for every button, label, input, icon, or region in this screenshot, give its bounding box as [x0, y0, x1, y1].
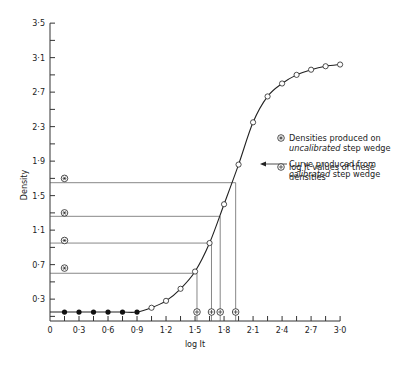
open-point — [265, 94, 270, 99]
svg-text:densities: densities — [289, 172, 326, 182]
svg-text:Densities produced on: Densities produced on — [289, 133, 381, 143]
filled-point — [91, 309, 96, 314]
open-point — [323, 64, 328, 69]
x-axis-label: log It — [185, 340, 205, 349]
y-tick-label: 1·5 — [32, 192, 45, 201]
arrow-head-icon — [260, 162, 266, 167]
y-axis-label: Density — [20, 170, 29, 201]
open-point — [192, 269, 197, 274]
calibrated-curve — [50, 65, 340, 313]
open-point — [221, 202, 226, 207]
y-tick-label: 3·5 — [32, 19, 45, 28]
y-tick-label: 0·3 — [32, 295, 45, 304]
y-tick-label: 2·7 — [32, 88, 45, 97]
open-point — [279, 81, 284, 86]
open-point — [178, 286, 183, 291]
filled-point — [120, 309, 125, 314]
x-tick-label: 2·1 — [247, 326, 260, 335]
x-tick-label: 1·5 — [189, 326, 202, 335]
circled-plus-icon — [278, 164, 285, 171]
x-tick-label: 3·0 — [334, 326, 347, 335]
open-point — [250, 120, 255, 125]
open-point — [149, 305, 154, 310]
data-markers — [61, 62, 342, 315]
open-point — [294, 72, 299, 77]
open-point — [236, 162, 241, 167]
circled-asterisk-icon — [278, 135, 285, 142]
x-tick-label: 0·3 — [73, 326, 86, 335]
x-tick-label: 0 — [47, 326, 52, 335]
y-tick-label: 1·1 — [32, 226, 45, 235]
characteristic-curve-chart: 00·30·60·91·21·51·82·12·42·73·00·30·71·1… — [0, 0, 401, 366]
x-tick-label: 0·9 — [131, 326, 144, 335]
x-tick-label: 1·2 — [160, 326, 173, 335]
open-point — [338, 62, 343, 67]
filled-point — [76, 309, 81, 314]
filled-point — [62, 309, 67, 314]
y-tick-label: 1·9 — [32, 157, 45, 166]
y-tick-label: 3·1 — [32, 54, 45, 63]
open-point — [207, 240, 212, 245]
x-tick-label: 0·6 — [102, 326, 115, 335]
legend-item-uncalibrated: Densities produced on uncalibrated step … — [278, 133, 391, 153]
filled-point — [105, 309, 110, 314]
filled-point — [134, 309, 139, 314]
open-point — [163, 298, 168, 303]
x-tick-label: 2·7 — [305, 326, 318, 335]
x-tick-label: 2·4 — [276, 326, 289, 335]
projection-lines — [50, 183, 236, 321]
svg-text:log It values of these: log It values of these — [289, 162, 375, 172]
y-tick-label: 2·3 — [32, 123, 45, 132]
x-tick-label: 1·8 — [218, 326, 231, 335]
y-tick-label: 0·7 — [32, 261, 45, 270]
svg-text:uncalibrated step wedge: uncalibrated step wedge — [289, 143, 391, 153]
open-point — [308, 67, 313, 72]
